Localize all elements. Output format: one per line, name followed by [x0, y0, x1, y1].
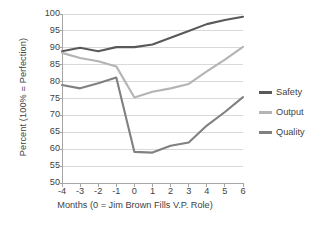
x-axis-tick-label: 6 — [240, 186, 245, 197]
x-axis-tick-label: 4 — [204, 186, 209, 197]
x-axis-tick-label: 0 — [132, 186, 137, 197]
x-axis-tick-label: -1 — [112, 186, 120, 197]
x-axis-tick-label: -2 — [94, 186, 102, 197]
x-axis-title: Months (0 = Jim Brown Fills V.P. Role) — [0, 200, 270, 210]
x-axis-tick-label: 1 — [150, 186, 155, 197]
x-axis-tick-label: 3 — [186, 186, 191, 197]
y-axis-tick-label: 100 — [45, 9, 60, 18]
legend-item-safety[interactable]: Safety — [259, 82, 325, 102]
legend-swatch-icon — [259, 111, 272, 114]
line-chart: Percent (100% = Perfection) 100959085807… — [0, 0, 325, 230]
x-axis-tick-label: -4 — [58, 186, 66, 197]
x-axis-tick-label: -3 — [76, 186, 84, 197]
series-line-safety — [62, 17, 243, 51]
x-axis-tick-labels: -4-3-2-10123456 — [62, 186, 243, 200]
legend-label: Quality — [276, 127, 305, 137]
series-line-output — [62, 47, 243, 98]
x-axis-tick-label: 5 — [222, 186, 227, 197]
legend-item-quality[interactable]: Quality — [259, 122, 325, 142]
legend-swatch-icon — [259, 91, 272, 94]
y-axis-title: Percent (100% = Perfection) — [18, 12, 28, 182]
legend-label: Output — [276, 107, 304, 117]
gridlines — [62, 14, 243, 183]
legend-label: Safety — [276, 87, 302, 97]
legend-swatch-icon — [259, 131, 272, 134]
chart-legend: SafetyOutputQuality — [259, 82, 325, 142]
plot-area — [62, 14, 243, 183]
plot-svg — [62, 14, 243, 183]
legend-item-output[interactable]: Output — [259, 102, 325, 122]
axis-lines — [58, 14, 243, 187]
x-axis-tick-label: 2 — [168, 186, 173, 197]
